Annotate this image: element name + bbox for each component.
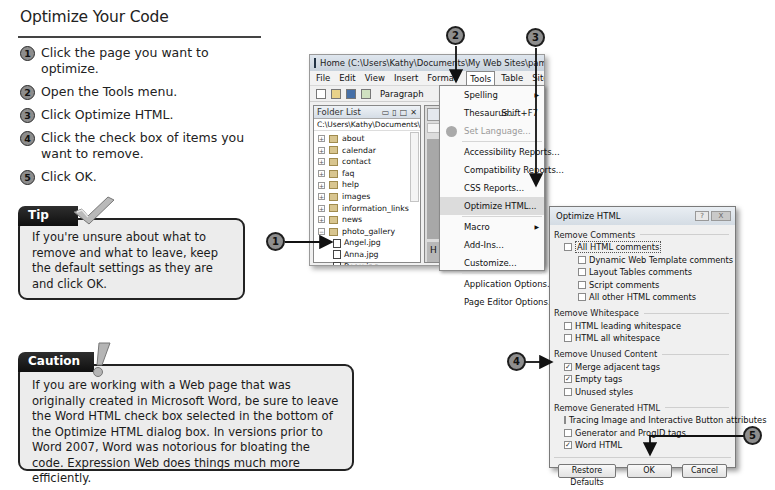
folder-list-header: Folder List ▭ ▯ □ ✕: [314, 106, 420, 119]
checkbox-dwt-comments[interactable]: Dynamic Web Template comments: [550, 254, 735, 267]
menu-site[interactable]: Site: [532, 73, 545, 83]
menu-item-page-editor-options[interactable]: Page Editor Options...: [440, 293, 544, 311]
checkbox[interactable]: [564, 243, 572, 251]
folder-tree: +about +calendar +contact +faq +help +im…: [314, 131, 420, 266]
expand-icon[interactable]: +: [318, 158, 325, 165]
close-icon[interactable]: ✕: [410, 108, 417, 117]
menu-file[interactable]: File: [316, 73, 330, 83]
shortcut-label: Shift+F7: [501, 104, 538, 122]
expand-icon[interactable]: +: [318, 193, 325, 200]
menu-item-customize[interactable]: Customize...: [440, 254, 544, 272]
menu-item-set-language[interactable]: Set Language...: [440, 122, 544, 140]
menu-table[interactable]: Table: [501, 73, 523, 83]
folder-icon: [329, 216, 338, 224]
language-icon: [446, 126, 457, 137]
checkbox-unused-styles[interactable]: Unused styles: [550, 386, 735, 399]
expand-icon[interactable]: +: [318, 147, 325, 154]
checkbox-all-html-comments[interactable]: All HTML comments: [550, 241, 735, 254]
menu-item-css-reports[interactable]: CSS Reports...: [440, 179, 544, 197]
restore-defaults-button[interactable]: Restore Defaults: [558, 464, 616, 478]
expand-icon[interactable]: +: [318, 170, 325, 177]
menu-format[interactable]: Format: [427, 73, 457, 83]
checkbox-script-comments[interactable]: Script comments: [550, 279, 735, 292]
checkbox[interactable]: [578, 256, 586, 264]
cancel-button[interactable]: Cancel: [682, 464, 727, 478]
new-folder-icon[interactable]: ▭: [382, 108, 390, 117]
menu-item-thesaurus[interactable]: Thesaurus...Shift+F7: [440, 104, 544, 122]
folder-images[interactable]: +images: [314, 191, 420, 203]
maximize-icon[interactable]: □: [400, 108, 408, 117]
file-beau[interactable]: Beau.jpg: [314, 261, 420, 266]
file-angel[interactable]: Angel.jpg: [314, 237, 420, 249]
save-icon[interactable]: [346, 89, 356, 99]
open-icon[interactable]: [331, 89, 341, 99]
checkbox-merge-adjacent-tags[interactable]: ✓Merge adjacent tags: [550, 361, 735, 374]
menu-item-application-options[interactable]: Application Options...: [440, 275, 544, 293]
folder-icon: [329, 204, 338, 212]
checkbox[interactable]: [564, 416, 566, 424]
ok-button[interactable]: OK: [627, 464, 672, 478]
checkbox[interactable]: [564, 334, 572, 342]
menu-item-compatibility-reports[interactable]: Compatibility Reports...: [440, 161, 544, 179]
folder-news[interactable]: +news: [314, 214, 420, 226]
expand-icon[interactable]: +: [318, 216, 325, 223]
folder-icon: [329, 158, 338, 166]
checkbox-layout-tables-comments[interactable]: Layout Tables comments: [550, 266, 735, 279]
menu-edit[interactable]: Edit: [339, 73, 355, 83]
expand-icon[interactable]: +: [318, 205, 325, 212]
collapse-icon[interactable]: −: [318, 228, 325, 235]
style-select[interactable]: Paragraph: [380, 89, 424, 99]
folder-calendar[interactable]: +calendar: [314, 145, 420, 157]
menu-insert[interactable]: Insert: [394, 73, 418, 83]
checkbox[interactable]: [564, 322, 572, 330]
checkbox-leading-whitespace[interactable]: HTML leading whitespace: [550, 320, 735, 333]
menu-item-macro[interactable]: Macro▶: [440, 218, 544, 236]
folder-icon: [329, 146, 338, 154]
checkbox-checked[interactable]: ✓: [564, 375, 572, 383]
folder-list-scrollbar[interactable]: [410, 132, 419, 202]
file-anna[interactable]: Anna.jpg: [314, 249, 420, 261]
menu-view[interactable]: View: [365, 73, 385, 83]
expand-icon[interactable]: +: [318, 182, 325, 189]
dialog-footer: Restore Defaults OK Cancel: [550, 464, 735, 478]
step-text: Click OK.: [41, 169, 260, 185]
help-button[interactable]: ?: [695, 211, 709, 221]
folder-photo-gallery[interactable]: −photo_gallery: [314, 226, 420, 238]
checkbox[interactable]: [578, 293, 586, 301]
menu-item-add-ins[interactable]: Add-Ins...: [440, 236, 544, 254]
checkbox-other-html-comments[interactable]: All other HTML comments: [550, 291, 735, 304]
menu-item-accessibility-reports[interactable]: Accessibility Reports...: [440, 143, 544, 161]
menu-item-optimize-html[interactable]: Optimize HTML...: [440, 197, 544, 215]
folder-icon: [329, 181, 338, 189]
checkbox-empty-tags[interactable]: ✓Empty tags: [550, 373, 735, 386]
checkbox-checked[interactable]: ✓: [564, 441, 572, 449]
checkbox[interactable]: [578, 281, 586, 289]
close-button[interactable]: X: [711, 211, 731, 221]
checkbox[interactable]: [578, 268, 586, 276]
folder-information-links[interactable]: +information_links: [314, 203, 420, 215]
folder-about[interactable]: +about: [314, 133, 420, 145]
folder-path: C:\Users\Kathy\Documents\M: [314, 119, 420, 131]
checkbox-generator-progid[interactable]: Generator and ProgID tags: [550, 427, 735, 440]
checkbox-checked[interactable]: ✓: [564, 363, 572, 371]
checkbox-word-html[interactable]: ✓Word HTML: [550, 439, 735, 452]
checkbox-all-whitespace[interactable]: HTML all whitespace: [550, 332, 735, 345]
checkbox-tracing-image[interactable]: Tracing Image and Interactive Button att…: [550, 414, 735, 427]
image-file-icon: [333, 239, 341, 248]
checkbox[interactable]: [564, 388, 572, 396]
tools-menu-dropdown: Spelling▶ Thesaurus...Shift+F7 Set Langu…: [439, 85, 545, 271]
new-page-icon[interactable]: [316, 89, 326, 99]
preview-icon[interactable]: [361, 89, 371, 99]
folder-contact[interactable]: +contact: [314, 156, 420, 168]
folder-help[interactable]: +help: [314, 179, 420, 191]
new-file-icon[interactable]: ▯: [392, 108, 396, 117]
image-file-icon: [333, 250, 341, 259]
expand-icon[interactable]: +: [318, 135, 325, 142]
menu-item-spelling[interactable]: Spelling▶: [440, 86, 544, 104]
step-2: 2 Open the Tools menu.: [20, 84, 260, 100]
menu-tools[interactable]: Tools: [466, 71, 495, 86]
checkbox[interactable]: [564, 429, 572, 437]
section-remove-generated-html: Remove Generated HTML: [550, 401, 735, 414]
folder-faq[interactable]: +faq: [314, 168, 420, 180]
dialog-titlebar: Optimize HTML ? X: [550, 207, 735, 225]
